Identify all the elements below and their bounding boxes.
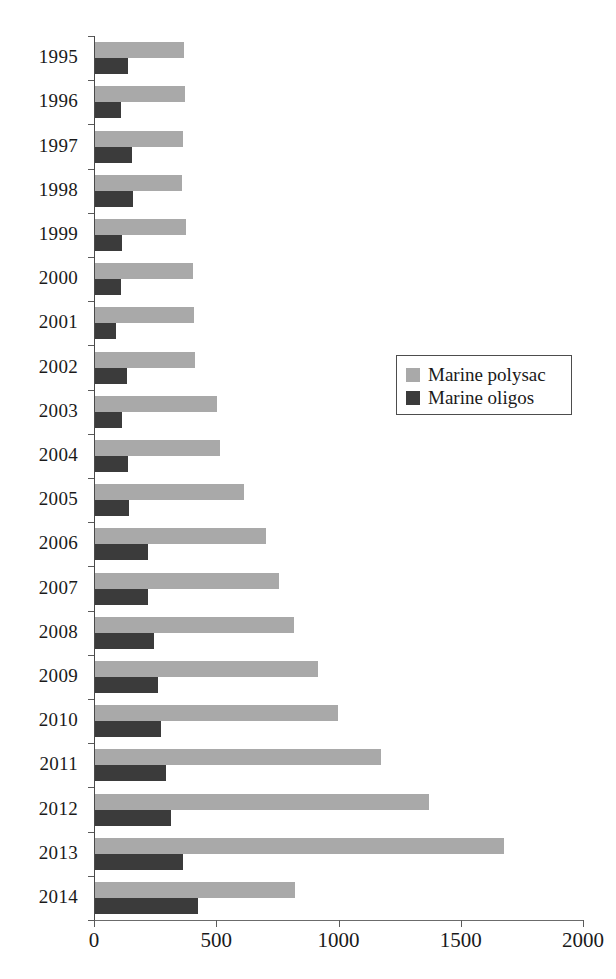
bar-marine-polysac	[95, 440, 220, 456]
x-axis-tick	[583, 920, 584, 927]
bar-marine-polysac	[95, 661, 318, 677]
legend-swatch-marine-oligos	[406, 391, 420, 405]
y-axis-tick	[88, 611, 94, 612]
legend: Marine polysac Marine oligos	[396, 355, 572, 415]
y-axis-label-1996: 1996	[39, 90, 78, 112]
bar-marine-polysac	[95, 219, 186, 235]
y-axis-label-2003: 2003	[39, 400, 78, 422]
bar-marine-oligos	[95, 412, 122, 428]
y-axis-label-2004: 2004	[39, 444, 78, 466]
legend-label-marine-polysac: Marine polysac	[428, 364, 546, 386]
y-axis-tick	[88, 832, 94, 833]
bar-marine-oligos	[95, 633, 154, 649]
bar-marine-polysac	[95, 573, 279, 589]
bar-marine-polysac	[95, 396, 217, 412]
y-axis-label-1995: 1995	[39, 46, 78, 68]
y-axis-tick	[88, 36, 94, 37]
y-axis-label-2001: 2001	[39, 311, 78, 333]
bar-marine-polysac	[95, 484, 244, 500]
bar-marine-oligos	[95, 810, 171, 826]
bar-marine-polysac	[95, 131, 183, 147]
x-axis-label-0: 0	[89, 928, 100, 953]
y-axis-label-1998: 1998	[39, 179, 78, 201]
bar-marine-polysac	[95, 42, 184, 58]
y-axis-label-2011: 2011	[40, 753, 79, 775]
y-axis-line	[94, 36, 95, 920]
bar-marine-polysac	[95, 86, 185, 102]
bar-marine-oligos	[95, 279, 121, 295]
y-axis-tick	[88, 478, 94, 479]
y-axis-tick	[88, 787, 94, 788]
y-axis-label-2012: 2012	[39, 798, 78, 820]
y-axis-label-2000: 2000	[39, 267, 78, 289]
x-axis-label-1500: 1500	[440, 928, 482, 953]
y-axis-tick	[88, 80, 94, 81]
y-axis-tick	[88, 169, 94, 170]
y-axis-tick	[88, 390, 94, 391]
bar-marine-polysac	[95, 617, 294, 633]
bar-marine-oligos	[95, 721, 161, 737]
y-axis-tick	[88, 566, 94, 567]
y-axis-label-2006: 2006	[39, 532, 78, 554]
bar-marine-oligos	[95, 191, 133, 207]
bar-marine-polysac	[95, 882, 295, 898]
legend-label-marine-oligos: Marine oligos	[428, 387, 534, 409]
legend-swatch-marine-polysac	[406, 368, 420, 382]
y-axis-tick	[88, 301, 94, 302]
legend-item: Marine polysac	[406, 363, 571, 386]
plot-area	[94, 36, 583, 920]
y-axis-tick	[88, 124, 94, 125]
y-axis-tick	[88, 655, 94, 656]
y-axis-label-2008: 2008	[39, 621, 78, 643]
bar-marine-polysac	[95, 528, 266, 544]
y-axis-tick	[88, 345, 94, 346]
x-axis-tick	[339, 920, 340, 927]
bar-marine-oligos	[95, 854, 183, 870]
bar-marine-polysac	[95, 263, 193, 279]
y-axis-category-labels: 1995199619971998199920002001200220032004…	[0, 36, 86, 920]
bar-marine-oligos	[95, 589, 148, 605]
bar-marine-oligos	[95, 235, 122, 251]
x-axis-label-500: 500	[201, 928, 233, 953]
bar-marine-oligos	[95, 500, 129, 516]
y-axis-tick	[88, 434, 94, 435]
x-axis-label-1000: 1000	[318, 928, 360, 953]
bar-chart: 1995199619971998199920002001200220032004…	[0, 0, 616, 979]
bar-marine-polysac	[95, 794, 429, 810]
y-axis-tick	[88, 876, 94, 877]
y-axis-label-2002: 2002	[39, 356, 78, 378]
x-axis-label-2000: 2000	[562, 928, 604, 953]
y-axis-tick	[88, 743, 94, 744]
x-axis-tick	[94, 920, 95, 927]
y-axis-label-2009: 2009	[39, 665, 78, 687]
bar-marine-oligos	[95, 58, 128, 74]
bar-marine-oligos	[95, 544, 148, 560]
bar-marine-oligos	[95, 765, 166, 781]
y-axis-label-2014: 2014	[39, 886, 78, 908]
y-axis-tick	[88, 699, 94, 700]
y-axis-tick	[88, 257, 94, 258]
bar-marine-polysac	[95, 749, 381, 765]
bar-marine-polysac	[95, 838, 504, 854]
y-axis-label-2007: 2007	[39, 577, 78, 599]
bar-marine-polysac	[95, 352, 195, 368]
x-axis-tick	[461, 920, 462, 927]
x-axis-tick-labels: 0500100015002000	[0, 928, 616, 962]
legend-item: Marine oligos	[406, 386, 571, 409]
bar-marine-oligos	[95, 677, 158, 693]
bar-marine-oligos	[95, 456, 128, 472]
x-axis-tick	[216, 920, 217, 927]
y-axis-tick	[88, 213, 94, 214]
bar-marine-oligos	[95, 147, 132, 163]
y-axis-label-2013: 2013	[39, 842, 78, 864]
bar-marine-oligos	[95, 898, 198, 914]
bar-marine-polysac	[95, 705, 338, 721]
bar-marine-oligos	[95, 323, 116, 339]
bar-marine-polysac	[95, 307, 194, 323]
y-axis-tick	[88, 522, 94, 523]
y-axis-label-1999: 1999	[39, 223, 78, 245]
bar-marine-polysac	[95, 175, 182, 191]
bar-marine-oligos	[95, 368, 127, 384]
y-axis-label-2005: 2005	[39, 488, 78, 510]
y-axis-label-1997: 1997	[39, 135, 78, 157]
